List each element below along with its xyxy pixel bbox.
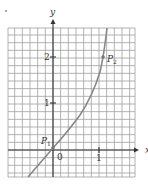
graph-figure: x y 0 1 1 2 P 1 P 2 — [0, 0, 148, 189]
origin-label: 0 — [57, 152, 63, 162]
label-p2-sub: 2 — [113, 58, 117, 65]
y-tick-label-1: 1 — [44, 98, 50, 108]
y-tick-label-2: 2 — [44, 52, 50, 62]
label-p1: P 1 — [40, 136, 51, 147]
stray-mark — [5, 10, 7, 12]
x-axis-arrow-icon — [134, 148, 139, 153]
point-p2 — [101, 55, 105, 59]
label-p2: P 2 — [106, 54, 117, 65]
y-axis-label: y — [49, 7, 56, 17]
label-p1-sub: 1 — [47, 140, 51, 147]
x-tick-label-1: 1 — [96, 153, 102, 163]
point-p1 — [51, 146, 55, 150]
graph-svg: x y 0 1 1 2 P 1 P 2 — [0, 0, 148, 189]
y-axis-arrow-icon — [51, 19, 56, 24]
axes — [8, 22, 137, 177]
grid — [8, 28, 135, 177]
x-axis-label: x — [145, 145, 148, 155]
